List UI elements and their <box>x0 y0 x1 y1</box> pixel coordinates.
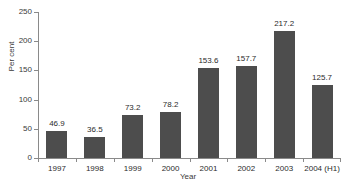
x-axis-tick <box>303 159 304 162</box>
y-axis-title: Per cent <box>7 22 16 92</box>
y-axis-line <box>38 12 39 158</box>
x-axis-category-label: 2004 (H1) <box>296 164 345 173</box>
bar-value-label: 36.5 <box>75 126 115 134</box>
bar <box>84 137 105 158</box>
x-axis-tick <box>265 159 266 162</box>
y-axis-tick-label: 100 <box>2 96 32 104</box>
x-axis-tick <box>114 159 115 162</box>
bar-value-label: 78.2 <box>151 101 191 109</box>
bar <box>46 131 67 158</box>
y-axis-tick-label: 0 <box>2 154 32 162</box>
x-axis-tick <box>152 159 153 162</box>
bar-value-label: 217.2 <box>264 20 304 28</box>
bar <box>274 31 295 158</box>
bar <box>312 85 333 158</box>
y-axis-tick-label: 200 <box>2 37 32 45</box>
y-axis-tick <box>34 70 38 71</box>
bar <box>122 115 143 158</box>
x-axis-title: Year <box>38 172 338 181</box>
x-axis-tick <box>227 159 228 162</box>
y-axis-tick-label: 50 <box>2 125 32 133</box>
bar-value-label: 46.9 <box>37 120 77 128</box>
bar <box>236 66 257 158</box>
x-axis-tick <box>76 159 77 162</box>
y-axis-tick-label: 150 <box>2 66 32 74</box>
bar <box>160 112 181 158</box>
y-axis-tick <box>34 129 38 130</box>
x-axis-tick <box>190 159 191 162</box>
bar-value-label: 73.2 <box>113 104 153 112</box>
y-axis-tick <box>34 41 38 42</box>
y-axis-tick-label: 250 <box>2 8 32 16</box>
bar-value-label: 157.7 <box>226 55 266 63</box>
y-axis-tick <box>34 100 38 101</box>
x-axis-tick <box>340 159 341 162</box>
y-axis-tick <box>34 12 38 13</box>
bar-chart: Per cent Year 050100150200250 46.936.573… <box>0 0 345 186</box>
bar <box>198 68 219 158</box>
bar-value-label: 125.7 <box>302 74 342 82</box>
bar-value-label: 153.6 <box>188 57 228 65</box>
x-axis-tick <box>38 159 39 162</box>
plot-area: 050100150200250 46.936.573.278.2153.6157… <box>38 12 341 158</box>
